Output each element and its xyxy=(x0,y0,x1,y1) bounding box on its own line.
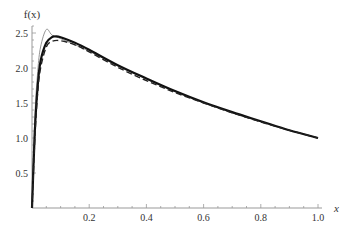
x-tick-label: 0.8 xyxy=(255,212,268,223)
x-axis-label: x xyxy=(333,202,339,214)
x-tick-label: 1.0 xyxy=(312,212,325,223)
plot-area xyxy=(32,29,318,208)
series-thin-gray xyxy=(32,29,318,208)
x-tick-label: 0.4 xyxy=(140,212,153,223)
y-tick-label: 0.5 xyxy=(16,168,29,179)
series-dashed xyxy=(32,40,318,208)
x-tick-label: 0.6 xyxy=(197,212,210,223)
y-tick-label: 1.5 xyxy=(16,98,29,109)
y-axis-label: f(x) xyxy=(24,8,41,21)
series-thick-solid xyxy=(32,36,318,208)
axes: 0.20.40.60.81.00.51.01.52.02.5 xyxy=(16,26,325,223)
x-tick-label: 0.2 xyxy=(83,212,96,223)
y-tick-label: 2.0 xyxy=(16,63,29,74)
y-tick-label: 1.0 xyxy=(16,133,29,144)
line-chart: 0.20.40.60.81.00.51.01.52.02.5 f(x) x xyxy=(0,0,353,230)
y-tick-label: 2.5 xyxy=(16,28,29,39)
